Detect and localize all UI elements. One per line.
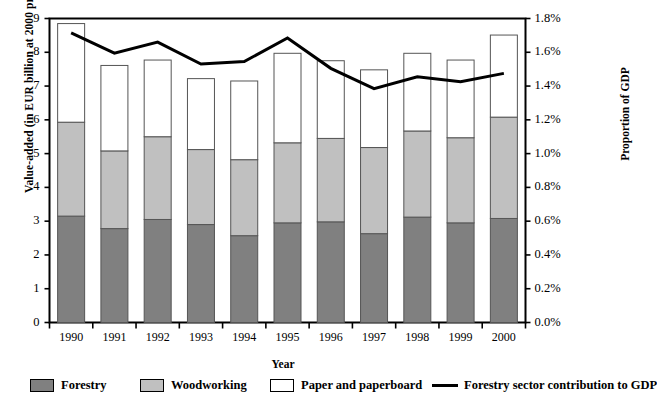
bar-segment: [447, 60, 474, 138]
bar-segment: [231, 81, 258, 160]
bar-segment: [101, 229, 128, 323]
bar-segment: [404, 53, 431, 131]
bar-segment: [361, 148, 388, 234]
bar-segment: [317, 222, 344, 323]
bar-segment: [187, 150, 214, 225]
legend-item[interactable]: Woodworking: [140, 376, 247, 394]
legend-item[interactable]: Paper and paperboard: [270, 376, 422, 394]
bar-segment: [101, 151, 128, 229]
bar-segment: [361, 234, 388, 323]
bar-segment: [231, 236, 258, 323]
legend-label: Woodworking: [171, 378, 247, 393]
bar-segment: [274, 223, 301, 323]
bar-segment: [404, 131, 431, 217]
bar-segment: [447, 138, 474, 223]
bar-segment: [274, 53, 301, 143]
bar-segment: [187, 79, 214, 150]
bar-segment: [144, 60, 171, 137]
legend-label: Forestry: [61, 378, 107, 393]
bar-segment: [361, 70, 388, 148]
bar-segment: [101, 65, 128, 150]
legend-line-marker: [432, 384, 458, 387]
bar-segment: [187, 225, 214, 323]
bar-segment: [274, 143, 301, 223]
bar-segment: [447, 223, 474, 323]
bar-segment: [317, 138, 344, 221]
bar-segment: [231, 160, 258, 236]
bar-segment: [144, 137, 171, 220]
legend-swatch: [270, 379, 294, 392]
legend-item[interactable]: Forestry: [30, 376, 107, 394]
bar-segment: [404, 217, 431, 322]
bar-segment: [490, 117, 517, 218]
bar-segment: [58, 216, 85, 322]
chart-legend: ForestryWoodworkingPaper and paperboardF…: [0, 376, 633, 396]
bar-segment: [58, 122, 85, 216]
legend-item[interactable]: Forestry sector contribution to GDP: [432, 376, 657, 394]
legend-label: Paper and paperboard: [301, 378, 422, 393]
legend-swatch: [30, 379, 54, 392]
legend-label: Forestry sector contribution to GDP: [464, 378, 657, 393]
legend-swatch: [140, 379, 164, 392]
bar-segment: [144, 219, 171, 322]
bar-segment: [490, 218, 517, 322]
